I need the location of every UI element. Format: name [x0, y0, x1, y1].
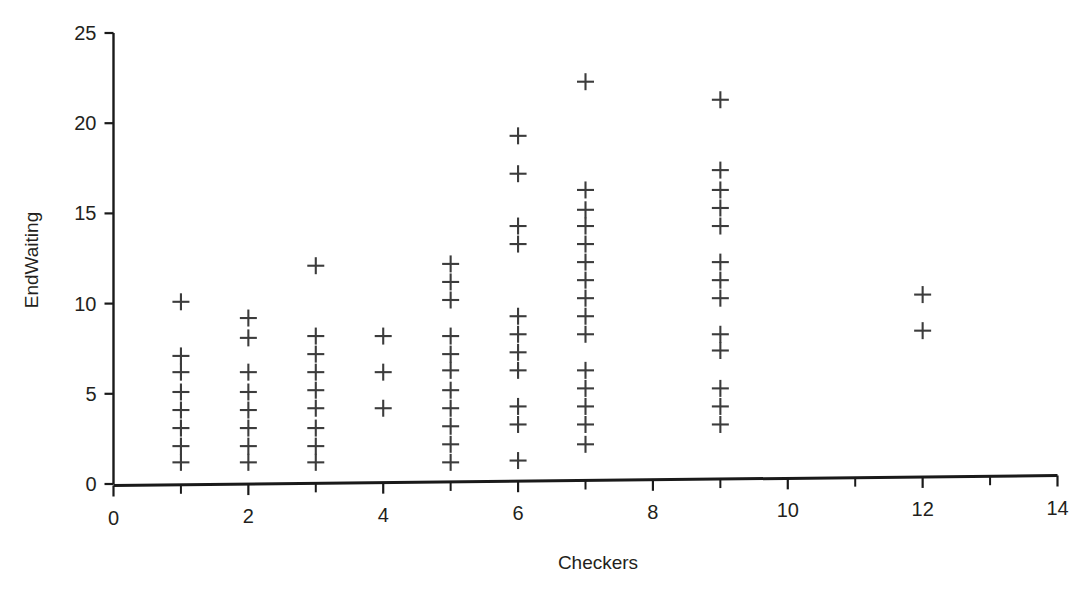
data-point-marker	[577, 416, 594, 433]
data-point-marker	[240, 454, 257, 471]
data-point-marker	[577, 236, 594, 253]
data-point-marker	[712, 416, 729, 433]
data-point-marker	[712, 398, 729, 415]
x-axis-tick-label: 10	[777, 499, 799, 521]
data-point-marker	[172, 420, 189, 437]
data-point-marker	[307, 382, 324, 399]
data-point-marker	[712, 254, 729, 271]
data-point-marker	[510, 165, 527, 182]
data-point-marker	[240, 420, 257, 437]
data-point-marker	[712, 342, 729, 359]
data-point-marker	[712, 272, 729, 289]
data-point-marker	[442, 454, 459, 471]
data-point-marker	[577, 73, 594, 90]
data-point-marker	[577, 201, 594, 218]
data-point-marker	[172, 383, 189, 400]
data-point-marker	[442, 400, 459, 417]
data-point-marker	[172, 364, 189, 381]
data-point-marker	[510, 127, 527, 144]
data-point-marker	[442, 382, 459, 399]
data-point-marker	[712, 199, 729, 216]
data-point-marker	[510, 416, 527, 433]
data-markers	[172, 73, 931, 471]
x-axis-tick-label: 14	[1046, 497, 1068, 519]
data-point-marker	[307, 364, 324, 381]
y-axis-tick-label: 10	[74, 293, 96, 315]
data-point-marker	[914, 286, 931, 303]
y-axis-tick-label: 5	[85, 383, 96, 405]
data-point-marker	[577, 362, 594, 379]
data-point-marker	[307, 438, 324, 455]
data-point-marker	[577, 181, 594, 198]
data-point-marker	[510, 362, 527, 379]
data-point-marker	[172, 402, 189, 419]
data-point-marker	[307, 328, 324, 345]
data-point-marker	[510, 398, 527, 415]
data-point-marker	[307, 454, 324, 471]
data-point-marker	[307, 346, 324, 363]
data-point-marker	[510, 218, 527, 235]
data-point-marker	[307, 400, 324, 417]
data-point-marker	[375, 400, 392, 417]
data-point-marker	[240, 402, 257, 419]
data-point-marker	[307, 420, 324, 437]
data-point-marker	[577, 380, 594, 397]
data-point-marker	[172, 438, 189, 455]
data-point-marker	[375, 364, 392, 381]
x-axis-tick-label: 0	[108, 507, 119, 529]
data-point-marker	[442, 362, 459, 379]
data-point-marker	[712, 162, 729, 179]
y-axis: 0510152025	[74, 22, 113, 495]
data-point-marker	[442, 255, 459, 272]
data-point-marker	[442, 418, 459, 435]
data-point-marker	[240, 438, 257, 455]
data-point-marker	[172, 454, 189, 471]
data-point-marker	[240, 364, 257, 381]
scatter-plot-figure: 0510152025 02468101214 Checkers EndWaiti…	[0, 0, 1087, 604]
x-axis-tick-label: 4	[378, 504, 389, 526]
data-point-marker	[577, 218, 594, 235]
y-axis-tick-label: 0	[85, 473, 96, 495]
data-point-marker	[914, 322, 931, 339]
data-point-marker	[510, 452, 527, 469]
data-point-marker	[442, 436, 459, 453]
data-point-marker	[712, 181, 729, 198]
data-point-marker	[442, 328, 459, 345]
data-point-marker	[240, 329, 257, 346]
x-axis-tick-label: 2	[243, 505, 254, 527]
data-point-marker	[510, 326, 527, 343]
data-point-marker	[442, 273, 459, 290]
data-point-marker	[577, 290, 594, 307]
y-axis-tick-label: 25	[74, 22, 96, 44]
data-point-marker	[510, 236, 527, 253]
data-point-marker	[307, 257, 324, 274]
data-point-marker	[712, 290, 729, 307]
data-point-marker	[577, 254, 594, 271]
y-axis-tick-label: 20	[74, 112, 96, 134]
data-point-marker	[577, 326, 594, 343]
data-point-marker	[172, 293, 189, 310]
data-point-marker	[442, 291, 459, 308]
data-point-marker	[712, 91, 729, 108]
data-point-marker	[375, 328, 392, 345]
x-axis-title: Checkers	[558, 552, 638, 573]
y-axis-title: EndWaiting	[21, 212, 42, 308]
x-axis-tick-label: 6	[513, 502, 524, 524]
x-axis: 02468101214	[108, 476, 1069, 529]
data-point-marker	[240, 310, 257, 327]
data-point-marker	[442, 346, 459, 363]
data-point-marker	[577, 272, 594, 289]
x-axis-tick-label: 12	[912, 498, 934, 520]
data-point-marker	[712, 326, 729, 343]
data-point-marker	[510, 344, 527, 361]
x-axis-tick-label: 8	[647, 501, 658, 523]
data-point-marker	[577, 398, 594, 415]
data-point-marker	[712, 218, 729, 235]
y-axis-tick-label: 15	[74, 202, 96, 224]
data-point-marker	[172, 347, 189, 364]
data-point-marker	[577, 308, 594, 325]
chart-canvas: 0510152025 02468101214 Checkers EndWaiti…	[0, 0, 1087, 604]
data-point-marker	[712, 380, 729, 397]
data-point-marker	[577, 436, 594, 453]
data-point-marker	[510, 308, 527, 325]
